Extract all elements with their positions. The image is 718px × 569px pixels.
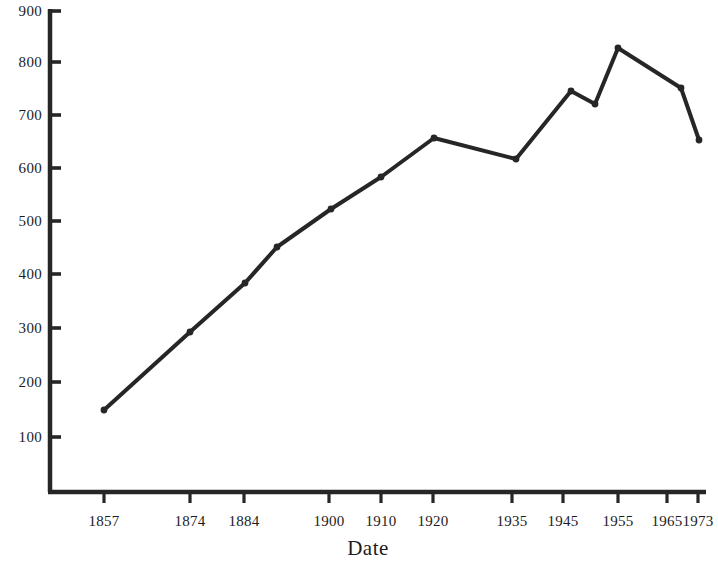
- chart-data-markers: [101, 45, 703, 414]
- chart-data-series: [104, 48, 699, 410]
- data-point-marker: [568, 88, 575, 95]
- data-point-marker: [592, 101, 599, 108]
- data-point-marker: [513, 156, 520, 163]
- data-point-marker: [378, 174, 385, 181]
- x-axis-tick-label: 1884: [214, 514, 274, 529]
- data-point-marker: [615, 45, 622, 52]
- data-line: [104, 48, 699, 410]
- data-point-marker: [274, 244, 281, 251]
- x-axis-tick-label: 1920: [403, 514, 463, 529]
- line-chart: 900800700600500400300200100 185718741884…: [0, 0, 718, 569]
- data-point-marker: [678, 85, 685, 92]
- data-point-marker: [101, 407, 108, 414]
- x-axis-tick-label: 1910: [351, 514, 411, 529]
- x-axis-tick-label: 1857: [74, 514, 134, 529]
- x-axis-tick-label: 1973: [668, 514, 718, 529]
- data-point-marker: [431, 135, 438, 142]
- y-axis-tick-label: 300: [19, 321, 42, 336]
- y-axis-tick-label: 100: [19, 430, 42, 445]
- chart-axes: [48, 9, 706, 492]
- y-axis-tick-label: 700: [19, 108, 42, 123]
- y-axis-tick-label: 400: [19, 267, 42, 282]
- x-axis-tick-label: 1945: [533, 514, 593, 529]
- y-axis-tick-label: 900: [19, 4, 42, 19]
- y-axis-tick-label: 500: [19, 214, 42, 229]
- chart-plot-area: [0, 0, 718, 569]
- x-axis-tick-label: 1900: [299, 514, 359, 529]
- y-axis-tick-label: 800: [19, 55, 42, 70]
- x-axis-tick-label: 1874: [160, 514, 220, 529]
- data-point-marker: [242, 280, 249, 287]
- y-axis-tick-label: 200: [19, 375, 42, 390]
- x-axis-title: Date: [268, 538, 468, 559]
- data-point-marker: [187, 329, 194, 336]
- data-point-marker: [328, 206, 335, 213]
- data-point-marker: [696, 137, 703, 144]
- y-axis-tick-label: 600: [19, 161, 42, 176]
